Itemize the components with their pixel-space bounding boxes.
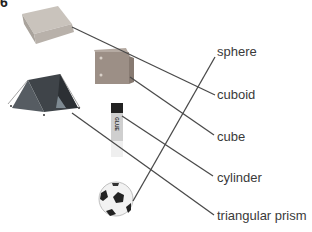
label-cylinder: cylinder — [217, 171, 262, 184]
box-icon — [22, 6, 74, 44]
match-line-ball-sphere — [133, 57, 215, 201]
label-triangular-prism: triangular prism — [217, 209, 307, 222]
tent-icon — [8, 74, 80, 116]
match-line-box-cuboid — [72, 27, 215, 95]
football-icon — [99, 182, 133, 216]
label-cuboid: cuboid — [217, 88, 255, 101]
matching-diagram: 6 — [0, 0, 312, 232]
diagram-canvas: GLUE — [0, 0, 312, 232]
match-line-tent-triangular-prism — [72, 113, 214, 215]
match-line-dice-cube — [130, 77, 214, 135]
svg-text:GLUE: GLUE — [114, 117, 120, 132]
label-cube: cube — [217, 130, 245, 143]
label-sphere: sphere — [217, 45, 257, 58]
